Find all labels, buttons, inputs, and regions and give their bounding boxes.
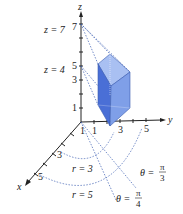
cylindrical-wedge-solid	[98, 54, 130, 126]
svg-text:3: 3	[160, 173, 165, 183]
z-axis-label: z	[77, 1, 82, 12]
z-equals-4-label: z = 4	[43, 64, 65, 75]
theta-pi-over-4-label: θ = π 4	[116, 188, 142, 209]
svg-text:π: π	[136, 188, 141, 198]
svg-text:θ =: θ =	[116, 193, 130, 204]
z-tick-3: 3	[72, 74, 77, 85]
y-tick-1: 1	[92, 125, 97, 136]
x-tick-1: 1	[80, 125, 85, 136]
z-tick-7: 7	[72, 21, 77, 32]
y-tick-3: 3	[118, 124, 123, 135]
y-axis-label: y	[167, 114, 173, 125]
axes	[25, 11, 166, 186]
y-axis	[81, 120, 162, 122]
svg-text:θ =: θ =	[140, 167, 154, 178]
z-tick-5: 5	[72, 60, 77, 71]
r-equals-3-label: r = 3	[72, 163, 93, 174]
x-axis-label: x	[16, 181, 22, 192]
theta-pi-over-3-label: θ = π 3	[140, 162, 166, 183]
y-axis-arrow-icon	[160, 118, 166, 122]
r-equals-5-label: r = 5	[72, 189, 93, 200]
cylindrical-wedge-diagram: z y x 1 3 5 7 1 3 5 1 3 5 z = 7 z = 4 r …	[0, 0, 183, 214]
z-tick-1: 1	[72, 102, 77, 113]
svg-text:π: π	[160, 162, 165, 172]
y-tick-5: 5	[144, 123, 149, 134]
svg-text:4: 4	[136, 199, 141, 209]
z-equals-7-label: z = 7	[43, 24, 66, 35]
x-tick-5: 5	[38, 171, 43, 182]
x-tick-3: 3	[57, 149, 62, 160]
x-ticks	[34, 133, 74, 176]
